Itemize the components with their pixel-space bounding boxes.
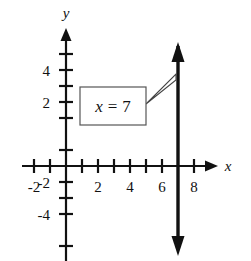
y-tick-label-4: 4 xyxy=(43,63,51,79)
plot-line-x-equals-7 xyxy=(172,42,185,256)
coordinate-plane-svg: x -2 2 4 6 8 y xyxy=(0,0,251,261)
callout-operator: = xyxy=(108,97,118,116)
x-tick-label-6: 6 xyxy=(158,179,166,195)
callout-variable: x xyxy=(94,97,103,116)
x-axis-arrowhead-icon xyxy=(205,161,218,172)
x-axis-label: x xyxy=(224,158,232,174)
y-axis-label: y xyxy=(61,5,70,21)
line-arrowhead-down-icon xyxy=(172,236,185,256)
y-tick-label--2: -2 xyxy=(38,175,51,191)
callout-equation: x=7 xyxy=(94,97,131,116)
line-arrowhead-up-icon xyxy=(172,42,185,62)
callout-value: 7 xyxy=(122,97,131,116)
y-axis-arrowhead-icon xyxy=(61,28,72,41)
y-axis-group: y 4 2 -2 -4 xyxy=(38,5,74,261)
equation-callout[interactable]: x=7 xyxy=(80,87,146,125)
x-tick-label-8: 8 xyxy=(190,179,198,195)
x-tick-label-2: 2 xyxy=(94,179,102,195)
x-axis-group: x -2 2 4 6 8 xyxy=(22,158,232,195)
callout-leader xyxy=(146,74,176,104)
leader-pointer-icon xyxy=(146,74,176,104)
y-tick-label-2: 2 xyxy=(43,95,51,111)
graph-figure: x -2 2 4 6 8 y xyxy=(0,0,251,261)
x-tick-label-4: 4 xyxy=(126,179,134,195)
y-tick-label--4: -4 xyxy=(38,207,51,223)
